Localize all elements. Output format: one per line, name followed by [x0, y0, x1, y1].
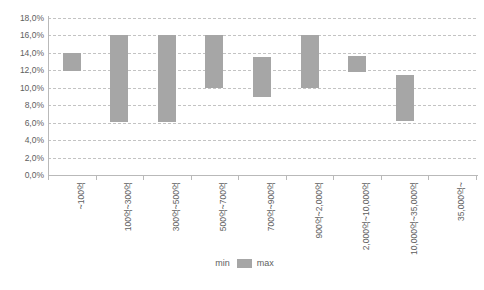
bar-range — [63, 53, 81, 71]
x-axis-tick-mark — [476, 175, 477, 180]
bar-slot — [96, 18, 144, 175]
x-axis-tick-mark — [428, 175, 429, 180]
y-axis-tick-label: 6,0% — [0, 118, 44, 127]
legend-item[interactable]: min — [210, 258, 230, 268]
x-axis-tick-mark — [96, 175, 97, 180]
bar-range — [348, 56, 366, 73]
bar-range — [253, 57, 271, 96]
x-axis-tick-mark — [333, 175, 334, 180]
legend-label: min — [215, 258, 230, 268]
x-axis-tick-mark — [191, 175, 192, 180]
y-axis-tick-label: 10,0% — [0, 83, 44, 92]
bar-slot — [238, 18, 286, 175]
x-axis-tick-mark — [143, 175, 144, 180]
bar-slot — [333, 18, 381, 175]
bar-slot — [428, 18, 476, 175]
x-axis-tick-mark — [48, 175, 49, 180]
legend-label: max — [257, 258, 274, 268]
y-axis-tick-label: 18,0% — [0, 14, 44, 23]
bar-slot — [381, 18, 429, 175]
bar-range — [110, 35, 128, 121]
bar-range — [205, 35, 223, 87]
chart-legend: minmax — [0, 258, 484, 268]
legend-item[interactable]: max — [237, 258, 274, 268]
y-axis-tick-label: 4,0% — [0, 136, 44, 145]
y-axis-tick-label: 2,0% — [0, 153, 44, 162]
x-axis-line — [48, 175, 478, 176]
x-axis-tick-mark — [286, 175, 287, 180]
x-axis-tick-mark — [381, 175, 382, 180]
y-axis-tick-label: 14,0% — [0, 48, 44, 57]
bar-slot — [286, 18, 334, 175]
bar-slot — [143, 18, 191, 175]
bar-range — [301, 35, 319, 87]
legend-swatch-icon — [237, 259, 252, 268]
bar-slot — [191, 18, 239, 175]
bar-range — [158, 35, 176, 121]
bar-range — [396, 75, 414, 121]
y-axis-tick-label: 16,0% — [0, 31, 44, 40]
bar-slot — [48, 18, 96, 175]
y-axis-tick-label: 12,0% — [0, 66, 44, 75]
y-axis-tick-label: 0,0% — [0, 171, 44, 180]
chart-container: 18,0%16,0%14,0%12,0%10,0%8,0%6,0%4,0%2,0… — [0, 0, 484, 290]
y-axis-tick-label: 8,0% — [0, 101, 44, 110]
x-axis-tick-mark — [238, 175, 239, 180]
chart-bars-layer — [48, 18, 476, 175]
